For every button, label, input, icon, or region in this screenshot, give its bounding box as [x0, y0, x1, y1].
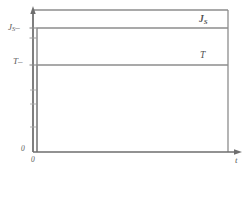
- x-axis-origin-label: 0: [31, 156, 35, 164]
- js-curve-label: JS: [199, 15, 208, 25]
- y-axis-tick-label-t: T–: [13, 57, 23, 66]
- x-axis-label: t: [235, 156, 238, 165]
- chart-canvas: [0, 0, 251, 216]
- js-curve-line: [37, 28, 228, 152]
- y-axis-origin-label: 0: [21, 145, 25, 153]
- y-axis-tick-label-t-dash: –: [18, 56, 23, 66]
- t-curve-label: T: [200, 51, 205, 61]
- figure-container: JS– T– 0 0 JS T t: [0, 0, 251, 216]
- x-axis-arrowhead: [234, 149, 242, 154]
- y-axis-tick-label-js: JS–: [8, 23, 20, 33]
- js-curve-label-subscript: S: [204, 18, 208, 25]
- plot-area: JS– T– 0 0 JS T t: [0, 0, 251, 216]
- t-curve-line: [37, 65, 228, 152]
- y-axis-tick-label-js-dash: –: [15, 22, 20, 32]
